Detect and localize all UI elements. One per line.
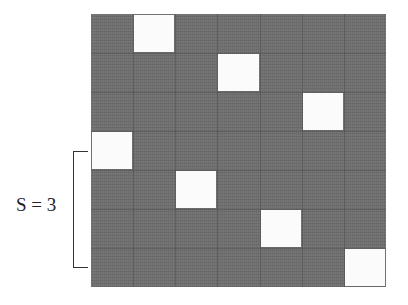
highlighted-cell bbox=[176, 171, 216, 208]
grid-line bbox=[344, 14, 345, 287]
grid-line bbox=[133, 14, 134, 287]
highlighted-cell bbox=[218, 54, 258, 91]
highlighted-cell bbox=[261, 210, 301, 247]
span-bracket bbox=[73, 151, 88, 268]
grid-line bbox=[91, 170, 386, 171]
highlighted-cell bbox=[134, 15, 174, 52]
grid-line bbox=[175, 14, 176, 287]
span-label: S = 3 bbox=[16, 194, 56, 216]
grid-line bbox=[91, 209, 386, 210]
highlighted-cell bbox=[92, 132, 132, 169]
highlighted-cell bbox=[345, 249, 385, 286]
grid-line bbox=[302, 14, 303, 287]
grid bbox=[91, 14, 386, 287]
highlighted-cell bbox=[303, 93, 343, 130]
grid-line bbox=[91, 131, 386, 132]
grid-line bbox=[91, 248, 386, 249]
